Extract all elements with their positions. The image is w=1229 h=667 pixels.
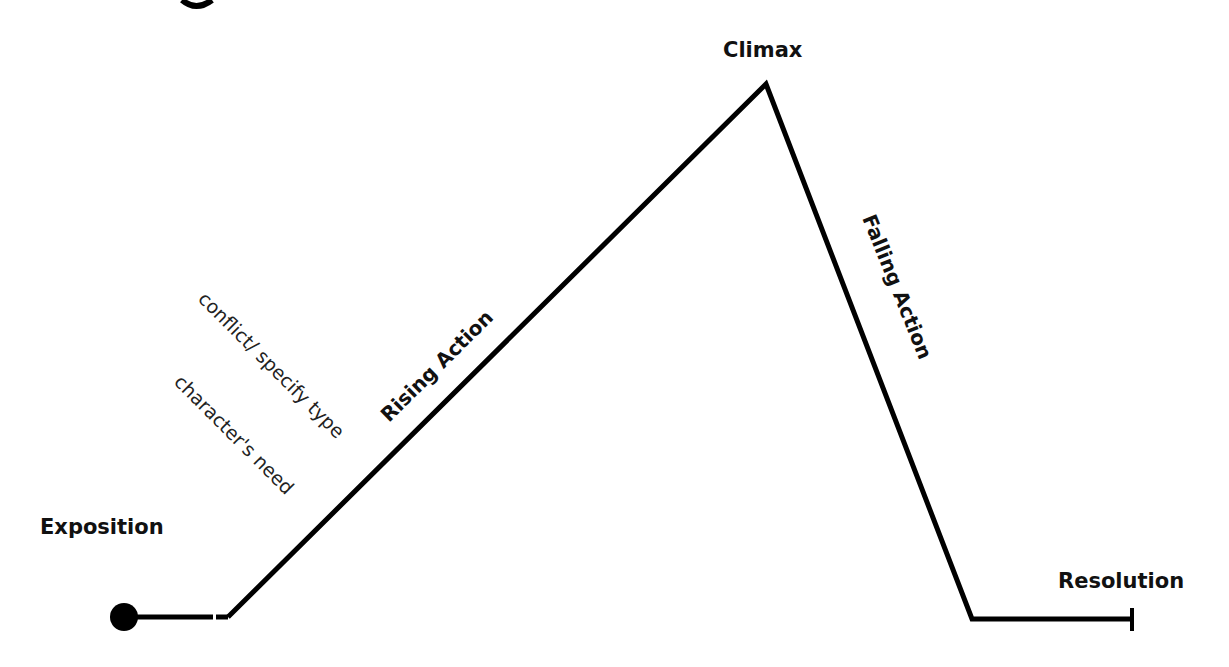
label-climax: Climax bbox=[723, 38, 803, 62]
plot-diagram: Climax Exposition Resolution Rising Acti… bbox=[0, 0, 1229, 667]
plot-line bbox=[228, 84, 1132, 619]
annotation-characters-need: character's need bbox=[170, 370, 298, 498]
cropped-heading-descender bbox=[182, 0, 212, 6]
label-resolution: Resolution bbox=[1058, 569, 1184, 593]
label-falling-action: Falling Action bbox=[857, 211, 937, 363]
label-exposition: Exposition bbox=[40, 515, 164, 539]
